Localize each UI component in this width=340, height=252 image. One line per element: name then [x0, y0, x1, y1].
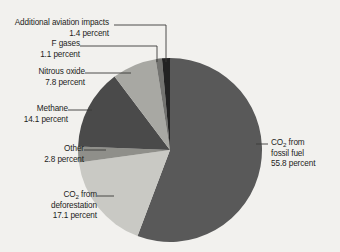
label-f-gases-value: 1.1 percent: [0, 50, 80, 61]
label-fossil-fuel-value: 55.8 percent: [271, 159, 340, 170]
label-deforestation-co2-prefix: CO: [63, 190, 75, 199]
label-methane-value: 14.1 percent: [0, 115, 68, 126]
label-deforestation-co2-subscript: 2: [76, 193, 79, 200]
label-other-value: 2.8 percent: [0, 155, 84, 166]
leader-line-f-gases: [80, 46, 157, 62]
label-f-gases-name: F gases: [0, 39, 80, 50]
label-nitrous-oxide: Nitrous oxide 7.8 percent: [0, 67, 85, 88]
label-fossil-fuel-co2-prefix: CO: [271, 138, 283, 147]
label-aviation: Additional aviation impacts 1.4 percent: [0, 18, 109, 39]
label-other: Other 2.8 percent: [0, 144, 84, 165]
label-deforestation-co2-suffix: from: [79, 190, 97, 199]
label-nitrous-oxide-value: 7.8 percent: [0, 78, 85, 89]
label-deforestation-value: 17.1 percent: [0, 211, 97, 222]
label-aviation-name: Additional aviation impacts: [0, 18, 109, 29]
label-other-name: Other: [0, 144, 84, 155]
leader-line-aviation: [114, 25, 166, 62]
label-fossil-fuel-co2-subscript: 2: [283, 141, 286, 148]
label-fossil-fuel-name: CO2 from: [271, 138, 340, 149]
label-aviation-value: 1.4 percent: [0, 29, 109, 40]
label-fossil-fuel-name-line2: fossil fuel: [271, 149, 340, 160]
label-nitrous-oxide-name: Nitrous oxide: [0, 67, 85, 78]
label-fossil-fuel: CO2 from fossil fuel 55.8 percent: [271, 138, 340, 170]
label-methane-name: Methane: [0, 104, 68, 115]
label-deforestation-name-line2: deforestation: [0, 201, 97, 212]
label-deforestation: CO2 from deforestation 17.1 percent: [0, 190, 97, 222]
label-deforestation-name: CO2 from: [0, 190, 97, 201]
label-methane: Methane 14.1 percent: [0, 104, 68, 125]
label-fossil-fuel-co2-suffix: from: [286, 138, 304, 147]
label-f-gases: F gases 1.1 percent: [0, 39, 80, 60]
pie-chart-figure: Additional aviation impacts 1.4 percent …: [0, 0, 340, 252]
